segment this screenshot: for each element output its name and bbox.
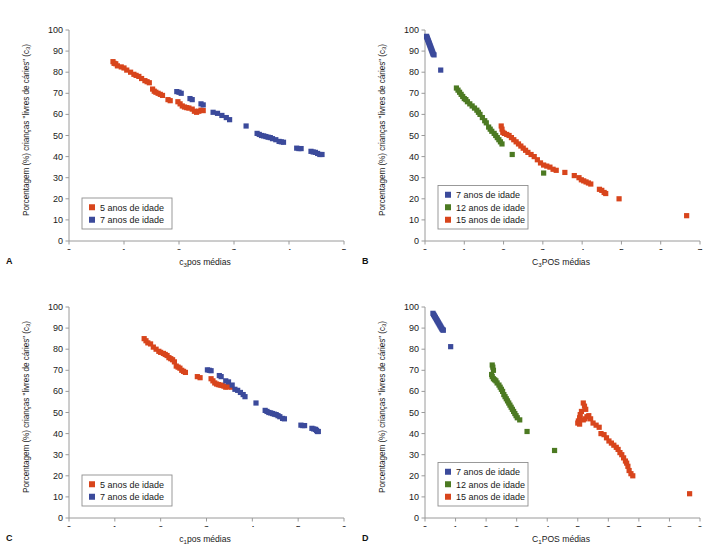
- legend-label: 12 anos de idade: [456, 480, 525, 490]
- y-tick-label: 50: [53, 131, 63, 141]
- legend-swatch: [445, 494, 451, 500]
- legend-label: 12 anos de idade: [456, 203, 525, 213]
- data-point: [242, 394, 247, 399]
- y-tick-label: 70: [409, 88, 419, 98]
- legend-label: 7 anos de idade: [100, 492, 164, 502]
- x-tick-label: 5: [341, 247, 346, 250]
- x-tick-label: 3: [514, 524, 519, 527]
- data-point: [603, 191, 608, 196]
- y-tick-label: 10: [409, 215, 419, 225]
- y-tick-label: 80: [409, 344, 419, 354]
- legend-swatch: [89, 217, 95, 223]
- data-point: [253, 400, 258, 405]
- data-point: [244, 123, 249, 128]
- x-tick-label: 5: [296, 524, 301, 527]
- y-tick-label: 50: [409, 131, 419, 141]
- y-tick-label: 20: [409, 471, 419, 481]
- data-point: [147, 80, 152, 85]
- y-tick-label: 50: [53, 408, 63, 418]
- panel-b-xlabel: C3POS médias: [416, 257, 706, 268]
- panel-a-xlabel: c3pos médias: [60, 257, 350, 268]
- panel-d-letter: D: [362, 533, 369, 543]
- legend-swatch: [445, 192, 451, 198]
- x-tick-label: 6: [341, 524, 346, 527]
- y-tick-label: 0: [414, 236, 419, 246]
- x-tick-label: 8: [667, 524, 672, 527]
- series-15-anos-de-idade: [575, 400, 692, 496]
- data-point: [572, 173, 577, 178]
- y-tick-label: 0: [58, 236, 63, 246]
- data-point: [448, 344, 453, 349]
- data-point: [588, 181, 593, 186]
- data-point: [597, 425, 602, 430]
- y-tick-label: 20: [409, 194, 419, 204]
- y-tick-label: 100: [48, 25, 63, 35]
- series-5-anos-de-idade: [110, 59, 205, 115]
- x-tick-label: 6: [658, 247, 663, 250]
- y-tick-label: 30: [409, 173, 419, 183]
- data-point: [441, 328, 446, 333]
- x-tick-label: 4: [286, 247, 291, 250]
- data-point: [219, 374, 224, 379]
- y-tick-label: 80: [53, 67, 63, 77]
- y-tick-label: 40: [409, 152, 419, 162]
- legend-label: 5 anos de idade: [100, 480, 164, 490]
- data-point: [160, 93, 165, 98]
- series-7-anos-de-idade: [174, 89, 324, 157]
- x-tick-label: 0: [66, 247, 71, 250]
- data-point: [302, 423, 307, 428]
- x-tick-label: 2: [501, 247, 506, 250]
- data-point: [499, 141, 504, 146]
- data-point: [524, 429, 529, 434]
- x-tick-label: 7: [636, 524, 641, 527]
- data-point: [281, 140, 286, 145]
- y-tick-label: 60: [409, 386, 419, 396]
- x-tick-label: 2: [484, 524, 489, 527]
- data-point: [438, 67, 443, 72]
- data-point: [552, 448, 557, 453]
- panel-a-letter: A: [6, 256, 13, 266]
- y-tick-label: 30: [409, 450, 419, 460]
- data-point: [562, 170, 567, 175]
- panel-d: Porcentagem (%) crianças "livres de cári…: [356, 277, 711, 553]
- y-tick-label: 10: [53, 492, 63, 502]
- series-7-anos-de-idade: [424, 34, 443, 73]
- panel-a-plot: 01020304050607080901000123455 anos de id…: [0, 0, 355, 250]
- x-tick-label: 3: [540, 247, 545, 250]
- data-point: [179, 91, 184, 96]
- y-tick-label: 80: [409, 67, 419, 77]
- x-tick-label: 7: [697, 247, 702, 250]
- y-tick-label: 90: [409, 323, 419, 333]
- x-tick-label: 1: [121, 247, 126, 250]
- series-5-anos-de-idade: [142, 336, 234, 390]
- x-tick-label: 0: [66, 524, 71, 527]
- panel-b-plot: 0102030405060708090100012345677 anos de …: [356, 0, 711, 250]
- data-point: [197, 375, 202, 380]
- y-tick-label: 30: [53, 173, 63, 183]
- data-point: [316, 429, 321, 434]
- y-tick-label: 40: [53, 152, 63, 162]
- legend-label: 7 anos de idade: [100, 215, 164, 225]
- series-7-anos-de-idade: [205, 367, 321, 434]
- data-point: [201, 108, 206, 113]
- legend-label: 15 anos de idade: [456, 215, 525, 225]
- data-point: [168, 98, 173, 103]
- legend-swatch: [89, 204, 95, 210]
- y-tick-label: 100: [404, 302, 419, 312]
- x-tick-label: 0: [422, 524, 427, 527]
- y-tick-label: 60: [409, 109, 419, 119]
- data-point: [616, 196, 621, 201]
- panel-d-plot: 010203040506070809010001234567897 anos d…: [356, 277, 711, 527]
- y-tick-label: 30: [53, 450, 63, 460]
- legend-swatch: [445, 204, 451, 210]
- x-tick-label: 4: [580, 247, 585, 250]
- x-tick-label: 2: [176, 247, 181, 250]
- y-tick-label: 90: [53, 46, 63, 56]
- data-point: [684, 213, 689, 218]
- y-tick-label: 80: [53, 344, 63, 354]
- legend-swatch: [445, 481, 451, 487]
- x-tick-label: 5: [575, 524, 580, 527]
- legend-label: 7 anos de idade: [456, 190, 520, 200]
- y-tick-label: 60: [53, 386, 63, 396]
- data-point: [554, 168, 559, 173]
